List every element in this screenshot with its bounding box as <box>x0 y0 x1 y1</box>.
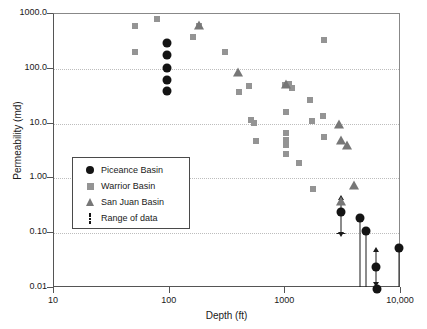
legend-item-label: Piceance Basin <box>101 165 163 175</box>
data-point-triangle <box>342 140 352 149</box>
data-point-circle <box>163 86 172 95</box>
data-point-square <box>222 49 228 55</box>
data-point-circle <box>372 285 381 294</box>
data-point-square <box>246 83 252 89</box>
legend-item-circle[interactable]: Piceance Basin <box>73 162 189 178</box>
range-bar-line <box>359 218 360 287</box>
data-point-square <box>296 160 302 166</box>
data-point-triangle <box>336 196 346 205</box>
gridline <box>54 124 399 125</box>
data-point-circle <box>355 213 364 222</box>
data-point-triangle <box>233 67 243 76</box>
y-axis-tick-label: 1.00 <box>0 171 47 181</box>
legend-item-label: Warrior Basin <box>101 181 155 191</box>
range-bar-line <box>365 231 366 287</box>
data-point-triangle <box>281 80 291 89</box>
data-point-triangle <box>334 119 344 128</box>
legend-item-range[interactable]: Range of data <box>73 210 189 226</box>
y-axis-tick-label: 0.10 <box>0 226 47 236</box>
data-point-square <box>253 138 259 144</box>
x-axis-tick-label: 10,000 <box>370 295 427 305</box>
legend-circle-icon <box>81 166 99 174</box>
data-point-triangle <box>349 181 359 190</box>
data-point-square <box>307 97 313 103</box>
data-point-square <box>236 89 242 95</box>
y-axis-tick-label: 1000.0 <box>0 7 47 17</box>
range-bar-up-arrow-icon <box>373 247 379 252</box>
data-point-square <box>132 23 138 29</box>
data-point-circle <box>395 244 404 253</box>
range-bar-cap <box>337 233 346 234</box>
data-point-square <box>154 16 160 22</box>
data-point-square <box>310 186 316 192</box>
data-point-circle <box>163 63 172 72</box>
y-axis-label: Permeability (md) <box>12 66 23 216</box>
data-point-square <box>283 151 289 157</box>
data-point-circle <box>163 51 172 60</box>
x-axis-tick <box>400 287 401 293</box>
legend-item-label: Range of data <box>101 213 158 223</box>
chart-legend: Piceance BasinWarrior BasinSan Juan Basi… <box>72 157 190 229</box>
y-axis-tick-label: 10.0 <box>0 117 47 127</box>
data-point-square <box>283 109 289 115</box>
data-point-triangle <box>194 20 204 29</box>
data-point-circle <box>163 76 172 85</box>
data-point-square <box>283 130 289 136</box>
legend-item-square[interactable]: Warrior Basin <box>73 178 189 194</box>
data-point-circle <box>337 208 346 217</box>
plot-area <box>53 13 400 287</box>
data-point-circle <box>361 226 370 235</box>
data-point-square <box>132 49 138 55</box>
data-point-square <box>321 134 327 140</box>
data-point-circle <box>372 263 381 272</box>
data-point-square <box>321 37 327 43</box>
data-point-square <box>320 113 326 119</box>
x-axis-tick-label: 10 <box>23 295 83 305</box>
range-bar-line <box>399 248 400 287</box>
permeability-vs-depth-chart: 0.010.101.0010.0100.01000.0 10100100010,… <box>0 0 427 329</box>
legend-square-icon <box>81 183 99 190</box>
y-axis-tick-label: 0.01 <box>0 281 47 291</box>
data-point-circle <box>163 38 172 47</box>
gridline <box>54 69 399 70</box>
data-point-square <box>309 118 315 124</box>
legend-triangle-icon <box>81 198 99 206</box>
x-axis-tick <box>53 287 54 293</box>
x-axis-tick-label: 100 <box>139 295 199 305</box>
x-axis-tick <box>169 287 170 293</box>
data-point-square <box>251 120 257 126</box>
legend-range-icon <box>81 213 99 224</box>
x-axis-label: Depth (ft) <box>53 310 400 321</box>
gridline <box>54 233 399 234</box>
x-axis-tick <box>284 287 285 293</box>
x-axis-tick-label: 1000 <box>254 295 314 305</box>
legend-item-triangle[interactable]: San Juan Basin <box>73 194 189 210</box>
legend-item-label: San Juan Basin <box>101 197 164 207</box>
data-point-square <box>283 142 289 148</box>
data-point-square <box>190 34 196 40</box>
y-axis-tick-label: 100.0 <box>0 62 47 72</box>
